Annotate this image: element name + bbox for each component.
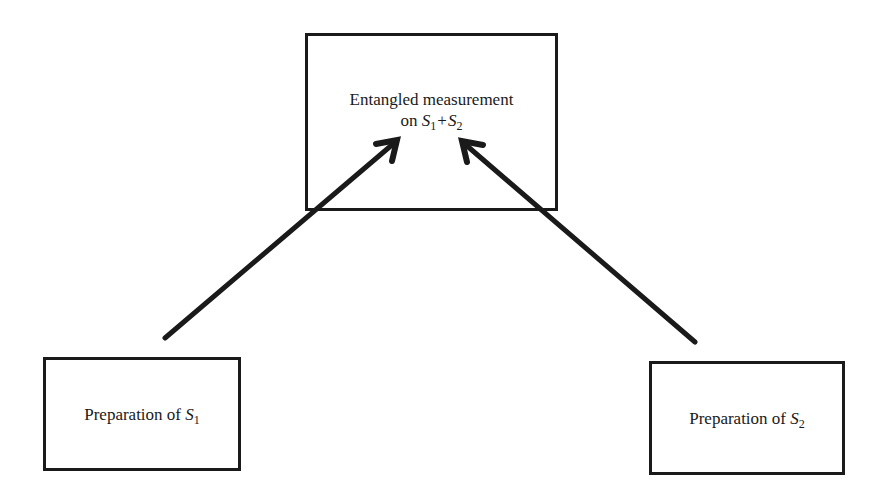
measurement-on-text: on xyxy=(401,111,418,130)
prep1-subscript: 1 xyxy=(194,413,200,427)
measurement-label-line1: Entangled measurement xyxy=(350,89,514,110)
prep1-label: Preparation of S1 xyxy=(84,404,200,425)
system2-subscript: 2 xyxy=(456,119,462,133)
measurement-box: Entangled measurement on S1+S2 xyxy=(305,33,558,211)
prep2-label: Preparation of S2 xyxy=(689,408,805,429)
plus-sign: + xyxy=(437,111,447,130)
prep2-box: Preparation of S2 xyxy=(649,361,845,475)
prep2-symbol: S xyxy=(790,409,799,428)
diagram-canvas: Entangled measurement on S1+S2 Preparati… xyxy=(0,0,883,503)
prep1-symbol: S xyxy=(185,405,194,424)
prep2-prefix: Preparation of xyxy=(689,409,786,428)
prep1-prefix: Preparation of xyxy=(84,405,181,424)
prep1-box: Preparation of S1 xyxy=(43,357,241,471)
measurement-label-line2: on S1+S2 xyxy=(350,110,514,131)
measurement-label: Entangled measurement on S1+S2 xyxy=(350,89,514,131)
system1-subscript: 1 xyxy=(430,119,436,133)
prep2-subscript: 2 xyxy=(799,417,805,431)
